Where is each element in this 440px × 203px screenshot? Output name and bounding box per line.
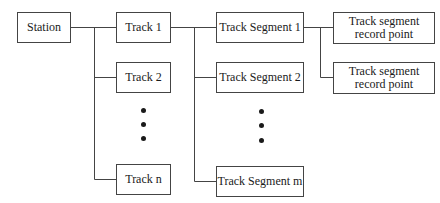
record-point-label: Track segment record point (340, 15, 428, 41)
station-node: Station (17, 12, 71, 43)
segment-node-m: Track Segment m (216, 166, 304, 197)
ellipsis-dot-icon (141, 136, 146, 141)
segment-label: Track Segment 2 (219, 71, 301, 84)
segment-label: Track Segment m (218, 175, 303, 188)
track-label: Track 2 (125, 71, 162, 84)
ellipsis-dot-icon (259, 109, 264, 114)
track-node-2: Track 2 (116, 62, 171, 93)
segment-node-2: Track Segment 2 (216, 62, 304, 93)
hierarchy-diagram: Station Track 1 Track 2 Track n Track Se… (0, 0, 440, 203)
ellipsis-dot-icon (141, 108, 146, 113)
track-node-n: Track n (116, 164, 171, 195)
record-point-node-1: Track segment record point (333, 12, 435, 44)
record-point-label: Track segment record point (340, 65, 428, 91)
track-label: Track n (125, 173, 162, 186)
track-node-1: Track 1 (116, 12, 171, 43)
record-point-node-2: Track segment record point (333, 62, 435, 94)
segment-node-1: Track Segment 1 (216, 12, 304, 43)
track-label: Track 1 (125, 21, 162, 34)
ellipsis-dot-icon (259, 123, 264, 128)
ellipsis-dot-icon (259, 138, 264, 143)
segment-label: Track Segment 1 (219, 21, 301, 34)
station-label: Station (27, 21, 61, 34)
ellipsis-dot-icon (141, 122, 146, 127)
